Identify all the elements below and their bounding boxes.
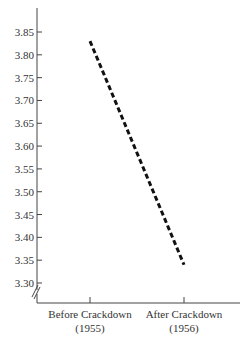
y-tick-label: 3.75 — [15, 72, 35, 84]
y-tick-label: 3.30 — [15, 277, 35, 289]
x-category-label: (1955) — [75, 322, 105, 335]
y-tick-label: 3.35 — [15, 254, 35, 266]
line-chart: 3.853.803.753.703.653.603.553.503.453.40… — [0, 0, 251, 349]
y-tick-label: 3.85 — [15, 26, 35, 38]
x-category-label: Before Crackdown — [48, 308, 132, 320]
dashed-trend-line — [90, 41, 184, 265]
y-tick-label: 3.65 — [15, 117, 35, 129]
y-tick-label: 3.40 — [15, 231, 35, 243]
y-tick-label: 3.80 — [15, 49, 35, 61]
x-category-label: After Crackdown — [146, 308, 223, 320]
y-tick-label: 3.50 — [15, 186, 35, 198]
y-tick-label: 3.60 — [15, 140, 35, 152]
y-tick-label: 3.70 — [15, 94, 35, 106]
y-ticks: 3.853.803.753.703.653.603.553.503.453.40… — [15, 26, 42, 289]
y-tick-label: 3.55 — [15, 163, 35, 175]
x-category-label: (1956) — [169, 322, 199, 335]
data-series — [90, 41, 184, 265]
y-tick-label: 3.45 — [15, 209, 35, 221]
